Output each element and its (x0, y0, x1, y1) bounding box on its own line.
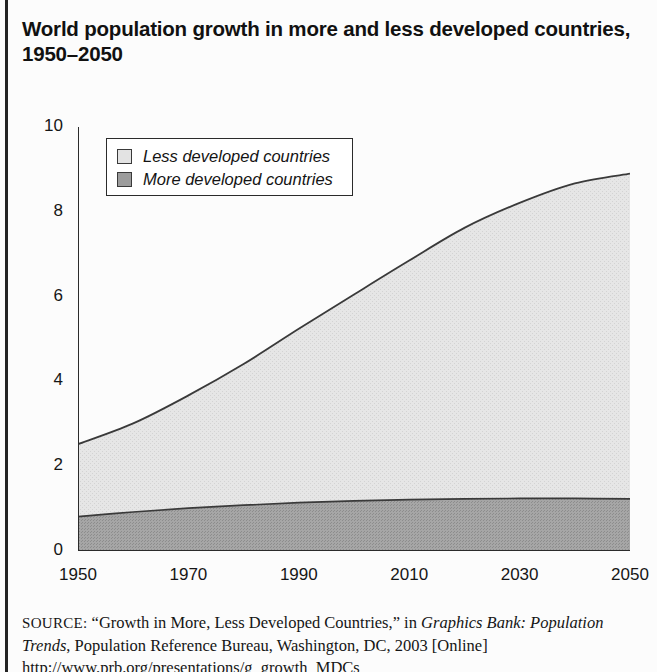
legend-swatch-more-developed (117, 172, 132, 187)
legend-item-more-developed: More developed countries (117, 168, 352, 191)
y-tick-label: 2 (23, 455, 63, 475)
figure-page: World population growth in more and less… (0, 0, 657, 672)
chart-figure: Billions (0, 0, 657, 600)
x-tick-label: 2030 (485, 565, 555, 585)
source-note: SOURCE: “Growth in More, Less Developed … (22, 612, 642, 672)
y-tick-label: 6 (23, 286, 63, 306)
legend-swatch-less-developed (117, 149, 132, 164)
x-tick-label: 1990 (264, 565, 334, 585)
x-tick-label: 1970 (153, 565, 223, 585)
source-line1-italic: Graphics (421, 613, 482, 632)
chart-legend: Less developed countries More developed … (106, 138, 353, 196)
source-prefix: SOURCE: (22, 615, 87, 631)
y-tick-label: 4 (23, 370, 63, 390)
area-series-less-developed (78, 174, 630, 551)
legend-item-less-developed: Less developed countries (117, 145, 352, 168)
y-tick-label: 10 (23, 116, 63, 136)
x-tick-label: 2010 (374, 565, 444, 585)
legend-label-less-developed: Less developed countries (143, 147, 330, 166)
x-tick-label: 2050 (595, 565, 657, 585)
legend-label-more-developed: More developed countries (143, 170, 333, 189)
y-tick-label: 8 (23, 201, 63, 221)
y-tick-label: 0 (23, 540, 63, 560)
source-line2-text: , Population Reference Bureau, Washingto… (66, 636, 359, 655)
source-line1-text: “Growth in More, Less Developed Countrie… (87, 613, 421, 632)
x-tick-label: 1950 (43, 565, 113, 585)
